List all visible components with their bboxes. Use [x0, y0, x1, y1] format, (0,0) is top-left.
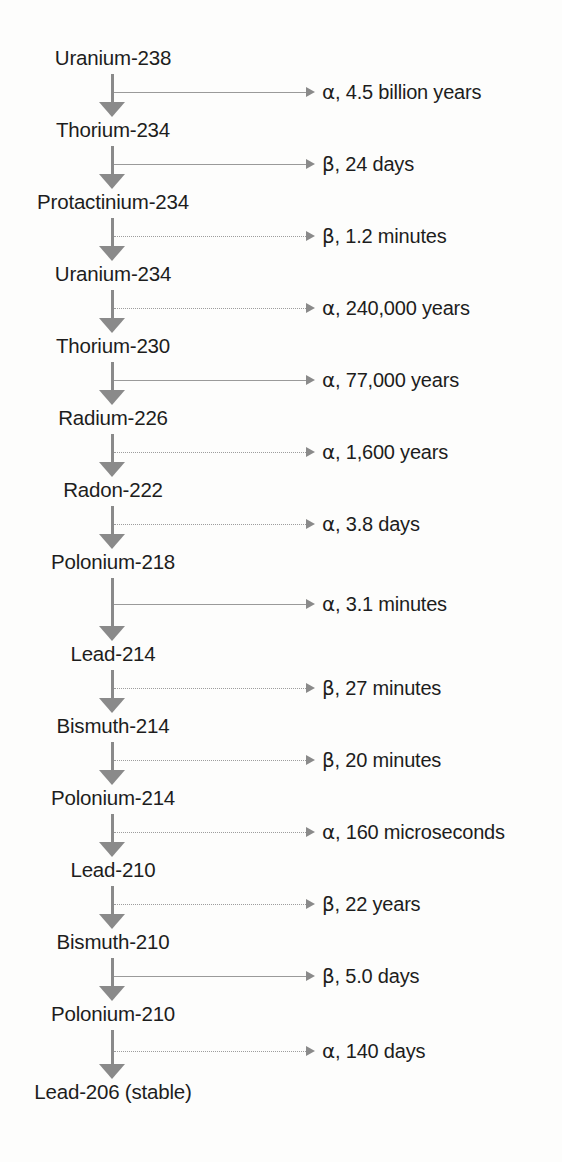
decay-chain-diagram: Uranium-238Thorium-234Protactinium-234Ur…: [0, 0, 562, 1162]
emission-branch-line: [114, 904, 306, 905]
emission-arrow-head-icon: [306, 519, 315, 529]
particle-symbol: β: [322, 676, 335, 700]
emission-label: α, 77,000 years: [322, 370, 459, 390]
emission-label: β, 1.2 minutes: [322, 226, 447, 246]
emission-branch-line: [114, 604, 306, 605]
particle-symbol: α: [322, 440, 335, 464]
decay-step: [0, 1030, 562, 1079]
decay-arrow-stem: [111, 1030, 114, 1064]
emission-label: α, 3.8 days: [322, 514, 420, 534]
emission-arrow-head-icon: [306, 303, 315, 313]
emission-branch-line: [114, 1051, 306, 1052]
particle-symbol: β: [322, 892, 335, 916]
decay-arrow-head-icon: [99, 698, 125, 713]
decay-step: [0, 742, 562, 785]
particle-symbol: α: [322, 1039, 335, 1063]
particle-symbol: β: [322, 748, 335, 772]
decay-arrow-stem: [111, 506, 114, 534]
decay-arrow-stem: [111, 742, 114, 770]
emission-branch-line: [114, 236, 306, 237]
emission-arrow-head-icon: [306, 599, 315, 609]
emission-branch-line: [114, 688, 306, 689]
decay-step: [0, 434, 562, 477]
emission-label: α, 240,000 years: [322, 298, 470, 318]
nuclide-label: Lead-214: [0, 644, 226, 665]
emission-label: β, 22 years: [322, 894, 420, 914]
emission-arrow-head-icon: [306, 87, 315, 97]
decay-step: [0, 886, 562, 929]
decay-arrow-stem: [111, 670, 114, 698]
nuclide-label: Polonium-218: [0, 552, 226, 573]
emission-label: α, 3.1 minutes: [322, 594, 447, 614]
decay-arrow-stem: [111, 74, 114, 102]
emission-arrow-head-icon: [306, 971, 315, 981]
decay-arrow-head-icon: [99, 986, 125, 1001]
decay-arrow-head-icon: [99, 534, 125, 549]
nuclide-label: Protactinium-234: [0, 192, 226, 213]
emission-branch-line: [114, 380, 306, 381]
decay-arrow-head-icon: [99, 914, 125, 929]
decay-arrow-stem: [111, 218, 114, 246]
decay-arrow-stem: [111, 362, 114, 390]
emission-label: α, 160 microseconds: [322, 822, 505, 842]
particle-symbol: β: [322, 224, 335, 248]
emission-branch-line: [114, 524, 306, 525]
nuclide-label: Lead-206 (stable): [0, 1082, 226, 1103]
halflife-text: 4.5 billion years: [346, 81, 482, 103]
halflife-text: 22 years: [345, 893, 420, 915]
nuclide-label: Thorium-234: [0, 120, 226, 141]
nuclide-label: Polonium-214: [0, 788, 226, 809]
decay-step: [0, 506, 562, 549]
particle-symbol: β: [322, 152, 335, 176]
emission-branch-line: [114, 92, 306, 93]
particle-symbol: α: [322, 80, 335, 104]
emission-label: β, 27 minutes: [322, 678, 441, 698]
emission-label: β, 24 days: [322, 154, 414, 174]
emission-branch-line: [114, 452, 306, 453]
emission-branch-line: [114, 976, 306, 977]
decay-step: [0, 290, 562, 333]
emission-arrow-head-icon: [306, 231, 315, 241]
emission-arrow-head-icon: [306, 899, 315, 909]
nuclide-label: Lead-210: [0, 860, 226, 881]
emission-arrow-head-icon: [306, 755, 315, 765]
halflife-text: 3.8 days: [346, 513, 420, 535]
decay-arrow-head-icon: [99, 1064, 125, 1079]
emission-arrow-head-icon: [306, 159, 315, 169]
nuclide-label: Radon-222: [0, 480, 226, 501]
decay-step: [0, 578, 562, 641]
decay-arrow-head-icon: [99, 102, 125, 117]
decay-arrow-stem: [111, 434, 114, 462]
decay-arrow-stem: [111, 814, 114, 842]
decay-step: [0, 362, 562, 405]
decay-arrow-stem: [111, 146, 114, 174]
nuclide-label: Uranium-238: [0, 48, 226, 69]
emission-branch-line: [114, 760, 306, 761]
emission-branch-line: [114, 832, 306, 833]
nuclide-label: Polonium-210: [0, 1004, 226, 1025]
halflife-text: 5.0 days: [345, 965, 419, 987]
decay-arrow-stem: [111, 578, 114, 626]
decay-arrow-head-icon: [99, 626, 125, 641]
decay-step: [0, 958, 562, 1001]
decay-arrow-head-icon: [99, 462, 125, 477]
halflife-text: 27 minutes: [345, 677, 441, 699]
decay-arrow-head-icon: [99, 390, 125, 405]
halflife-text: 77,000 years: [346, 369, 459, 391]
emission-arrow-head-icon: [306, 683, 315, 693]
nuclide-label: Bismuth-210: [0, 932, 226, 953]
decay-step: [0, 670, 562, 713]
decay-step: [0, 218, 562, 261]
emission-label: α, 1,600 years: [322, 442, 448, 462]
halflife-text: 140 days: [346, 1040, 426, 1062]
nuclide-label: Radium-226: [0, 408, 226, 429]
halflife-text: 240,000 years: [346, 297, 470, 319]
decay-arrow-stem: [111, 290, 114, 318]
particle-symbol: α: [322, 512, 335, 536]
decay-arrow-head-icon: [99, 318, 125, 333]
nuclide-label: Uranium-234: [0, 264, 226, 285]
particle-symbol: α: [322, 592, 335, 616]
emission-label: α, 140 days: [322, 1041, 425, 1061]
emission-label: β, 20 minutes: [322, 750, 441, 770]
halflife-text: 20 minutes: [345, 749, 441, 771]
